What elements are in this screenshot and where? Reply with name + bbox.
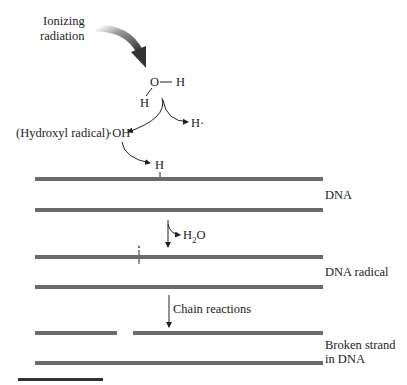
dna-radical-strand-top [35,255,323,259]
dna-radical-strand-bottom [35,285,323,289]
hydrogen-radical: H· [191,116,204,130]
broken-strand-right [133,331,323,335]
chain-reactions-label: Chain reactions [173,302,251,316]
h2o-arrow [168,224,180,235]
ionizing-label-2: radiation [40,29,84,43]
broken-strand-label-1: Broken strand [325,338,395,352]
water-oxygen: O [150,75,159,89]
water-hydrogen-bottom: H [140,96,149,110]
to-h-radical-arrow [163,100,188,122]
hydroxyl-formula: ·OH [108,126,130,140]
ionizing-radiation-arrow [96,28,146,68]
ionizing-label-1: Ionizing [43,14,85,28]
radical-dot [138,246,140,248]
water-hydrogen-right: H [176,75,185,89]
broken-dna-strand-bottom [35,361,323,365]
dna-radical-label: DNA radical [325,265,389,279]
dna-strand-bottom [35,208,323,212]
hydroxyl-label: (Hydroxyl radical) [16,126,109,140]
o-h-bond-lower [146,88,152,96]
dna-label: DNA [325,188,352,202]
hydroxyl-attack-arrow [122,142,150,163]
footer-rule [18,378,103,381]
dna-hydrogen: H [155,158,164,172]
dna-strand-top [35,177,323,181]
broken-strand-label-2: in DNA [325,352,365,366]
broken-strand-left [35,331,117,335]
water-product: H2O [183,228,206,247]
